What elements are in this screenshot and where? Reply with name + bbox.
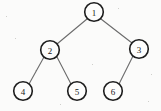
tree-node-5[interactable]: 5 [68,82,87,101]
edge-2-5 [57,57,71,84]
node-label-1: 1 [92,8,97,18]
tree-node-2[interactable]: 2 [41,41,60,60]
edge-1-2 [57,19,87,44]
node-group: 1 2 3 4 5 6 [14,3,149,101]
node-label-6: 6 [111,87,116,97]
edge-1-3 [101,19,132,43]
edge-2-4 [29,57,44,84]
tree-node-4[interactable]: 4 [14,82,33,101]
node-label-3: 3 [137,45,142,55]
binary-tree-diagram: 1 2 3 4 5 6 [0,0,161,111]
tree-canvas: 1 2 3 4 5 6 [0,0,161,111]
node-label-5: 5 [75,87,80,97]
tree-node-6[interactable]: 6 [104,82,123,101]
node-label-2: 2 [48,46,53,56]
tree-node-3[interactable]: 3 [130,40,149,59]
node-label-4: 4 [21,87,26,97]
edge-3-6 [119,56,133,84]
tree-node-1[interactable]: 1 [85,3,104,22]
